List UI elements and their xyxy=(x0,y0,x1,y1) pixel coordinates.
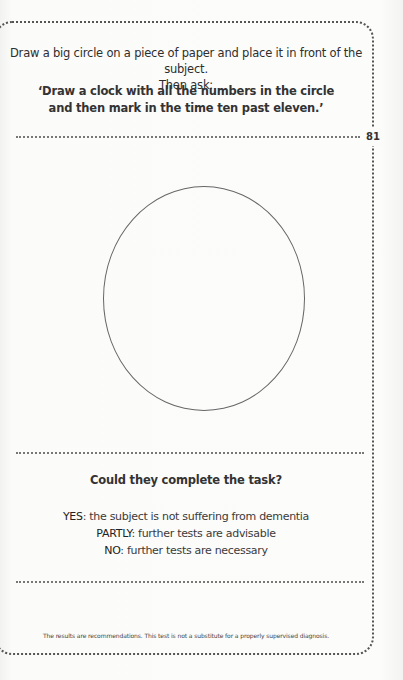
assessment-question: Could they complete the task? xyxy=(0,473,372,487)
result-partly: PARTLY: further tests are advisable xyxy=(0,525,372,542)
page-number: 81 xyxy=(366,131,380,142)
result-key: PARTLY xyxy=(96,527,131,540)
result-key: YES xyxy=(63,510,83,523)
result-text: : further tests are necessary xyxy=(120,544,267,557)
dotted-divider xyxy=(16,136,360,138)
instruction-line: Draw a big circle on a piece of paper an… xyxy=(0,45,372,77)
book-page: 81 Draw a big circle on a piece of paper… xyxy=(0,0,403,680)
assessment-results: YES: the subject is not suffering from d… xyxy=(0,508,372,559)
instruction-quote: ‘Draw a clock with all the numbers in th… xyxy=(0,83,372,117)
result-text: : further tests are advisable xyxy=(132,527,276,540)
result-text: : the subject is not suffering from deme… xyxy=(83,510,309,523)
quote-line: ‘Draw a clock with all the numbers in th… xyxy=(0,83,372,100)
clock-drawing-circle xyxy=(103,186,305,411)
disclaimer-text: The results are recommendations. This te… xyxy=(0,632,372,639)
result-key: NO xyxy=(104,544,120,557)
dotted-divider xyxy=(16,581,364,583)
result-no: NO: further tests are necessary xyxy=(0,542,372,559)
dotted-divider xyxy=(16,452,364,454)
quote-line: and then mark in the time ten past eleve… xyxy=(0,100,372,117)
result-yes: YES: the subject is not suffering from d… xyxy=(0,508,372,525)
